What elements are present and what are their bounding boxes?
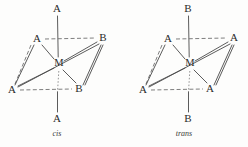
- cis-caption: cis: [53, 129, 62, 138]
- trans-equatorial-label-upper-left: A: [164, 32, 172, 44]
- diagram-trans: B B A A A A M trans: [139, 2, 238, 138]
- trans-bond-m-to-upper-right-a: [195, 42, 228, 61]
- trans-axial-label-top: B: [184, 2, 191, 14]
- cis-axial-label-bottom: A: [53, 112, 61, 124]
- trans-plane-edge-right: [216, 45, 234, 85]
- cis-plane-edge-bottom: [20, 89, 72, 90]
- cis-bond-m-to-upper-right-b: [64, 42, 97, 61]
- isomer-diagram-svg: A A A B A B M cis: [0, 0, 248, 147]
- trans-equatorial-label-lower-left: A: [139, 83, 147, 95]
- trans-center-label: M: [185, 57, 195, 68]
- trans-axial-bond-top: [189, 16, 190, 57]
- cis-axial-bond-top: [58, 16, 59, 57]
- cis-bond-m-to-upper-left-a: [42, 45, 54, 59]
- trans-plane-edge-top: [176, 38, 227, 39]
- cis-axial-label-top: A: [53, 2, 61, 14]
- trans-plane-edge-left: [146, 45, 162, 84]
- trans-plane-edge-bottom: [151, 89, 203, 90]
- cis-equatorial-label-upper-left: A: [33, 32, 41, 44]
- cis-equatorial-label-lower-left: A: [8, 83, 16, 95]
- trans-caption: trans: [176, 129, 192, 138]
- cis-bond-m-to-lower-right-b: [63, 70, 76, 83]
- cis-plane-edge-top: [45, 38, 96, 39]
- trans-bond-m-to-upper-left-a: [173, 45, 185, 59]
- cis-plane-edge-left: [15, 45, 31, 84]
- trans-equatorial-label-upper-right: A: [230, 31, 238, 43]
- diagram-cis: A A A B A B M cis: [8, 2, 107, 138]
- cis-equatorial-label-lower-right: B: [75, 82, 82, 94]
- cis-plane-edge-right: [85, 45, 103, 85]
- isomer-figure: A A A B A B M cis: [0, 0, 248, 147]
- cis-center-label: M: [54, 57, 64, 68]
- trans-equatorial-label-lower-right: A: [206, 82, 214, 94]
- trans-axial-label-bottom: B: [184, 112, 191, 124]
- cis-equatorial-label-upper-right: B: [99, 31, 106, 43]
